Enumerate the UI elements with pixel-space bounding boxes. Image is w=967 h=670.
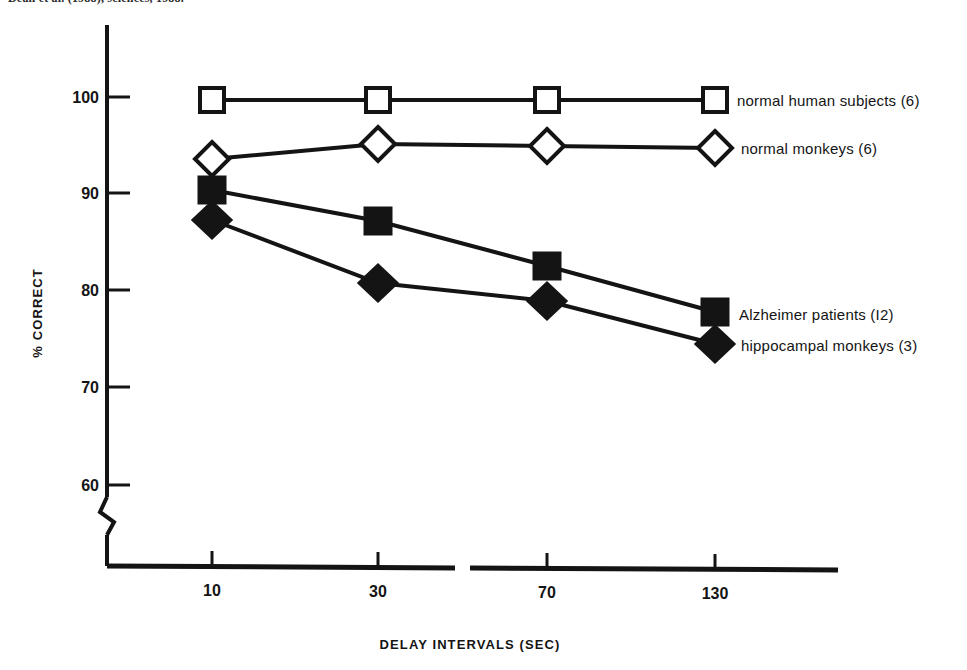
- cropped-header-text: Dean et al. (1988), sciences, 1988.: [8, 0, 184, 6]
- x-tick-label-70: 70: [538, 584, 556, 601]
- y-tick-label-80: 80: [81, 282, 99, 299]
- legend-label-normal-monkeys: normal monkeys (6): [741, 140, 877, 157]
- data-point-marker[interactable]: [528, 283, 566, 319]
- legend-marker-open-square[interactable]: [703, 88, 727, 112]
- data-point-marker[interactable]: [534, 253, 560, 279]
- series-line: [212, 144, 715, 159]
- y-tick-marks: [109, 97, 130, 485]
- y-tick-label-60: 60: [81, 477, 99, 494]
- y-tick-label-100: 100: [72, 89, 99, 106]
- data-point-marker[interactable]: [195, 142, 229, 176]
- series-normal-monkeys[interactable]: normal monkeys (6): [195, 127, 877, 176]
- x-axis-group: 10 30 70 130 DELAY INTERVALS (SEC): [107, 551, 838, 652]
- legend-label-hippocampal-monkeys: hippocampal monkeys (3): [741, 337, 917, 354]
- data-point-marker[interactable]: [193, 202, 231, 238]
- chart-svg: 100 90 80 70 60 % CORRECT 10 30 70 130 D…: [0, 0, 967, 670]
- legend-label-alzheimer-patients: Alzheimer patients (I2): [739, 306, 894, 323]
- series-normal-human-subjects[interactable]: normal human subjects (6): [200, 88, 920, 112]
- legend-marker-open-diamond[interactable]: [698, 131, 732, 165]
- legend-marker-filled-diamond[interactable]: [696, 326, 734, 362]
- y-axis-break-icon: [100, 497, 114, 535]
- x-axis-line-left: [107, 566, 455, 568]
- data-point-marker[interactable]: [366, 88, 390, 112]
- data-point-marker[interactable]: [535, 88, 559, 112]
- data-point-marker[interactable]: [361, 127, 395, 161]
- figure-canvas: Dean et al. (1988), sciences, 1988. 100 …: [0, 0, 967, 670]
- x-axis-line-right: [470, 568, 838, 570]
- data-point-marker[interactable]: [200, 88, 224, 112]
- data-point-marker[interactable]: [199, 177, 225, 203]
- series-hippocampal-monkeys[interactable]: hippocampal monkeys (3): [193, 202, 917, 362]
- data-point-marker[interactable]: [365, 208, 391, 234]
- x-tick-label-130: 130: [702, 585, 729, 602]
- series-line: [212, 220, 715, 344]
- data-point-marker[interactable]: [530, 129, 564, 163]
- y-axis-group: 100 90 80 70 60 % CORRECT: [30, 25, 130, 566]
- legend-marker-filled-square[interactable]: [702, 299, 728, 325]
- x-axis-title: DELAY INTERVALS (SEC): [380, 637, 561, 652]
- x-tick-label-10: 10: [203, 582, 221, 599]
- y-tick-label-70: 70: [81, 379, 99, 396]
- legend-label-normal-human-subjects: normal human subjects (6): [737, 92, 920, 109]
- data-point-marker[interactable]: [359, 265, 397, 301]
- y-axis-title: % CORRECT: [30, 268, 45, 357]
- y-tick-label-90: 90: [81, 185, 99, 202]
- x-tick-label-30: 30: [369, 583, 387, 600]
